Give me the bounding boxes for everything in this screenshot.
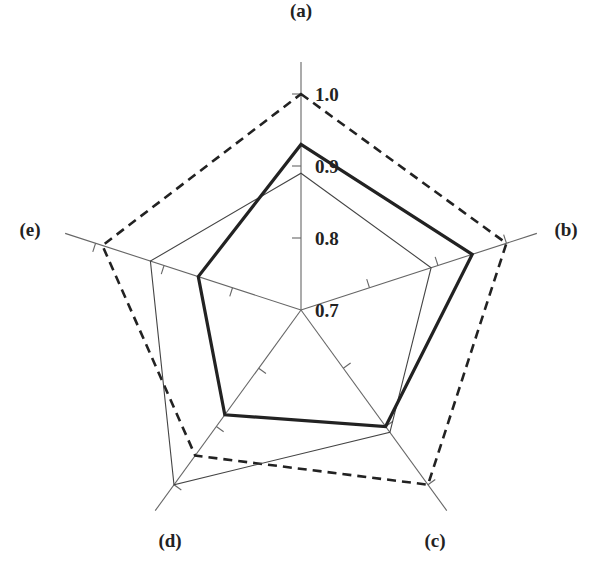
tick-mark: [504, 235, 507, 244]
axis-label-a: (a): [290, 0, 312, 22]
tick-mark: [216, 426, 223, 431]
tick-mark: [435, 257, 438, 266]
radar-series: [102, 94, 506, 485]
axis-label-b: (b): [554, 219, 577, 241]
axis-label-c: (c): [424, 530, 445, 552]
radar-axes: [65, 62, 537, 511]
tick-mark: [93, 243, 96, 252]
tick-mark: [230, 288, 233, 297]
tick-mark: [174, 485, 181, 490]
radial-tick-label: 1.0: [315, 84, 339, 105]
series-dashed-polygon: [102, 94, 506, 485]
axis-label-d: (d): [158, 530, 181, 552]
axis-line-4: [65, 233, 301, 310]
tick-mark: [259, 368, 266, 373]
tick-mark: [161, 266, 164, 275]
tick-mark: [367, 279, 370, 288]
tick-mark: [343, 363, 350, 368]
axis-label-e: (e): [19, 219, 40, 241]
radial-tick-label: 0.8: [315, 228, 339, 249]
radial-tick-labels: 0.70.80.91.0: [315, 84, 339, 321]
radar-chart: (a)(b)(c)(d)(e) 0.70.80.91.0: [0, 0, 593, 569]
series-bold-polygon: [198, 144, 472, 426]
radial-tick-label: 0.9: [315, 156, 339, 177]
series-thin-polygon: [150, 173, 431, 485]
axis-line-2: [301, 310, 447, 511]
radial-tick-label: 0.7: [315, 300, 339, 321]
axis-line-3: [155, 310, 301, 511]
